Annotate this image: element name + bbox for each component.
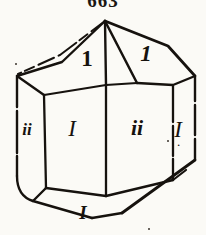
edge-left-vertex-to-left-shoulder	[17, 76, 44, 95]
edge-prism-left	[44, 95, 46, 188]
face-label-left-face: I	[58, 117, 86, 140]
face-label-left-edge: ii	[14, 121, 40, 138]
edge-front-top-to-right-front-top	[106, 83, 137, 85]
edge-right-front-top-to-right-vertex	[137, 76, 195, 85]
scan-speck	[148, 228, 150, 230]
face-label-right-face: ii	[123, 117, 151, 139]
edge-bottom-right-bevel	[122, 160, 195, 213]
edge-bottom-left-corner	[17, 176, 46, 201]
face-label-bottom: I	[70, 203, 96, 222]
crystal-figure-page: 663	[0, 0, 206, 235]
edge-left-shoulder-to-front-top	[44, 85, 106, 95]
scan-speck	[167, 140, 169, 142]
edge-bottom-girdle-left	[46, 188, 106, 196]
face-label-top-center: 1	[72, 47, 102, 70]
edge-apex-to-front-top	[105, 21, 106, 85]
scan-speck	[15, 63, 17, 65]
edge-bottom-front-point	[92, 213, 122, 218]
face-label-right-edge: I.	[165, 118, 191, 141]
face-label-top-right: 1	[133, 42, 159, 65]
face-label-right-edge-period: .	[177, 135, 180, 148]
